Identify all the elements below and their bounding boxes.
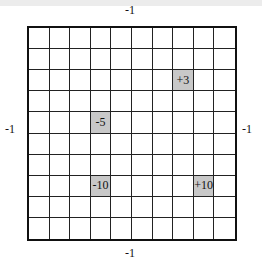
grid-cell [70,91,91,112]
right-edge-reward-label: -1 [242,123,252,135]
grid-cell [91,218,112,239]
grid-cell [91,49,112,70]
grid-cell [50,28,71,49]
grid-cell [70,28,91,49]
grid-cell [132,70,153,91]
grid-cell [214,155,235,176]
grid-cell [50,70,71,91]
reward-value: -10 [93,178,109,193]
grid-cell [29,176,50,197]
grid-cell [214,218,235,239]
grid-cell [132,218,153,239]
grid-cell [29,112,50,133]
grid-cell [111,91,132,112]
grid-cell [111,218,132,239]
grid-cell [50,176,71,197]
grid-cell [132,197,153,218]
left-edge-reward-label: -1 [5,123,15,135]
grid-cell [214,28,235,49]
gridworld: +3-5-10+10 [27,26,237,241]
grid-cell [173,176,194,197]
grid-cell [132,112,153,133]
grid-cell [70,134,91,155]
grid-cell [132,155,153,176]
bottom-edge-reward-label: -1 [125,247,135,259]
grid-cell [153,112,174,133]
grid-cell [70,70,91,91]
grid-cell [50,91,71,112]
grid-cell [173,49,194,70]
grid-cell [214,70,235,91]
grid-cell [91,70,112,91]
grid-cell [29,197,50,218]
grid-cell [29,91,50,112]
grid-cell [29,155,50,176]
reward-value: -5 [96,115,106,130]
grid-cell [91,28,112,49]
grid-cell [173,197,194,218]
grid-cell [132,49,153,70]
grid-cell [194,49,215,70]
grid-cell [91,155,112,176]
grid-cell [91,91,112,112]
grid-cell [91,197,112,218]
grid-cell [153,28,174,49]
grid-cell [153,197,174,218]
grid-cell [70,112,91,133]
grid-cell [111,28,132,49]
grid-cell [173,218,194,239]
grid-cell [214,112,235,133]
grid-cell [194,218,215,239]
grid-cell [29,49,50,70]
top-edge-reward-label: -1 [125,4,135,16]
grid-cell [153,91,174,112]
grid-cell [70,176,91,197]
grid-cell [153,176,174,197]
reward-value: +3 [177,73,190,88]
grid-cell [70,155,91,176]
grid-cell [214,176,235,197]
grid-cell [70,49,91,70]
grid-cell [50,155,71,176]
reward-cell: +3 [173,70,194,91]
grid-cell [111,176,132,197]
grid-cell [50,218,71,239]
grid-cell [29,28,50,49]
grid-cell [153,218,174,239]
grid-cell [173,28,194,49]
grid-cell [111,49,132,70]
reward-cell: -5 [91,112,112,133]
grid-cell [153,49,174,70]
grid-cell [173,134,194,155]
grid-cell [214,91,235,112]
grid-cell [111,112,132,133]
reward-value: +10 [194,178,213,193]
grid-cell [29,134,50,155]
grid-cell [132,91,153,112]
grid-cell [153,155,174,176]
grid-cell [70,218,91,239]
grid-cell [194,112,215,133]
grid-cell [50,134,71,155]
grid-cell [111,197,132,218]
grid-cell [194,70,215,91]
grid-cell [194,91,215,112]
grid-cell [194,155,215,176]
grid-cell [111,155,132,176]
grid-cell [70,197,91,218]
reward-cell: +10 [194,176,215,197]
grid-cell [29,70,50,91]
grid-cell [194,28,215,49]
grid-cell [50,49,71,70]
grid-cell [194,197,215,218]
grid-cell [132,176,153,197]
grid-cell [132,28,153,49]
grid-cell [50,197,71,218]
grid-cell [29,218,50,239]
grid-cell [214,134,235,155]
grid-cell [91,134,112,155]
grid-cell [194,134,215,155]
reward-cell: -10 [91,176,112,197]
grid-cell [132,134,153,155]
grid-cell [111,70,132,91]
